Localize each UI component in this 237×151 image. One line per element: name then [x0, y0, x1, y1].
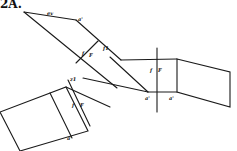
label-ev: ev — [47, 10, 53, 16]
label-F-right: F — [157, 67, 162, 73]
lower-left-face — [0, 87, 88, 151]
projection-diagram: 2A. ev a' f F f1 — [0, 0, 237, 151]
label-a-right: a' — [169, 95, 174, 101]
label-f1: f1 — [102, 45, 109, 51]
right-face — [177, 59, 230, 107]
lower-inner-line — [50, 93, 72, 138]
label-a-left: a' — [145, 95, 150, 101]
label-a-bottom: a' — [67, 135, 72, 141]
label-z1: z1 — [69, 76, 76, 82]
label-f-right: f — [149, 67, 153, 73]
band-top — [121, 59, 177, 60]
lower-connector — [83, 78, 148, 92]
label-a-top: a' — [78, 16, 83, 22]
label-F-bottom: F — [79, 102, 84, 108]
label-F: F — [88, 52, 93, 58]
diagram-drawing: ev a' f F f1 z1 f F a' a' f F a' — [0, 0, 237, 151]
fold-line-f — [76, 41, 98, 63]
